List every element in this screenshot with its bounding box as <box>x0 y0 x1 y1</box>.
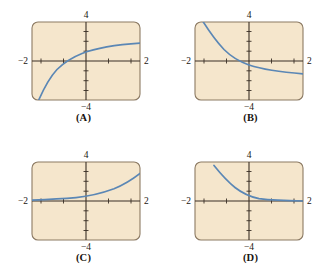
x-right-label-b: 2 <box>307 56 312 66</box>
x-right-label-a: 2 <box>144 56 149 66</box>
panel-caption-b: (B) <box>167 112 334 123</box>
figure-container: 4 −4 −2 2 (A) <box>0 0 334 280</box>
x-left-label-c: −2 <box>18 196 28 206</box>
y-bottom-label-d: −4 <box>244 242 254 252</box>
x-left-label-d: −2 <box>181 196 191 206</box>
y-bottom-label-a: −4 <box>81 102 91 112</box>
panel-c: 4 −4 −2 2 (C) <box>0 140 167 280</box>
x-right-label-c: 2 <box>144 196 149 206</box>
panel-b: 4 −4 −2 2 (B) <box>167 0 334 140</box>
y-bottom-label-c: −4 <box>81 242 91 252</box>
x-left-label-a: −2 <box>18 56 28 66</box>
x-right-label-d: 2 <box>307 196 312 206</box>
panel-caption-a: (A) <box>0 112 167 123</box>
y-top-label-b: 4 <box>247 10 252 20</box>
panel-caption-d: (D) <box>167 252 334 263</box>
y-top-label-a: 4 <box>84 10 89 20</box>
panel-caption-c: (C) <box>0 252 167 263</box>
panel-d: 4 −4 −2 2 (D) <box>167 140 334 280</box>
panel-a: 4 −4 −2 2 (A) <box>0 0 167 140</box>
y-bottom-label-b: −4 <box>244 102 254 112</box>
y-top-label-d: 4 <box>247 150 252 160</box>
x-left-label-b: −2 <box>181 56 191 66</box>
y-top-label-c: 4 <box>84 150 89 160</box>
